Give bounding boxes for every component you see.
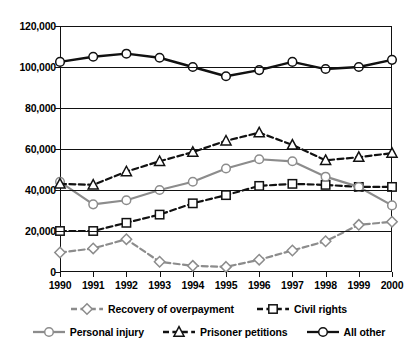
legend-marker-circle-icon (32, 325, 66, 339)
y-tick-mark (55, 190, 60, 191)
gridline (60, 190, 392, 191)
x-tick-label: 1996 (248, 279, 271, 291)
line-chart: 020,00040,00060,00080,000100,000120,000 … (0, 0, 417, 355)
x-tick-label: 1995 (215, 279, 238, 291)
legend-label: Civil rights (294, 303, 347, 315)
y-tick-label: 120,000 (0, 21, 56, 32)
y-tick-label: 60,000 (0, 144, 56, 155)
legend-marker-square-icon (256, 302, 290, 316)
x-tick-mark (359, 272, 360, 277)
y-tick-label: 100,000 (0, 62, 56, 73)
legend-marker-diamond-icon (70, 302, 104, 316)
x-tick-mark (160, 272, 161, 277)
x-tick-mark (60, 272, 61, 277)
legend-label: Recovery of overpayment (108, 303, 234, 315)
gridline (60, 149, 392, 150)
x-tick-mark (392, 272, 393, 277)
legend-label: Personal injury (70, 326, 144, 338)
legend-marker-circle-icon (306, 325, 340, 339)
x-tick-label: 1994 (182, 279, 205, 291)
x-tick-mark (326, 272, 327, 277)
x-tick-label: 1999 (348, 279, 371, 291)
x-tick-label: 1993 (148, 279, 171, 291)
legend-row: Personal injuryPrisoner petitionsAll oth… (0, 325, 417, 339)
y-tick-label: 20,000 (0, 226, 56, 237)
x-tick-label: 1992 (115, 279, 138, 291)
x-tick-mark (126, 272, 127, 277)
x-tick-mark (93, 272, 94, 277)
x-tick-mark (226, 272, 227, 277)
gridline (60, 67, 392, 68)
y-tick-label: 80,000 (0, 103, 56, 114)
legend-marker-triangle-icon (162, 325, 196, 339)
legend-item-personal-injury[interactable]: Personal injury (32, 325, 144, 339)
chart-legend: Recovery of overpaymentCivil rights Pers… (0, 302, 417, 355)
x-tick-label: 1997 (281, 279, 304, 291)
legend-label: All other (344, 326, 386, 338)
legend-item-civil-rights[interactable]: Civil rights (256, 302, 347, 316)
x-tick-label: 1991 (82, 279, 105, 291)
x-tick-mark (193, 272, 194, 277)
legend-label: Prisoner petitions (200, 326, 287, 338)
series-all-other (56, 49, 397, 80)
x-tick-label: 1990 (49, 279, 72, 291)
y-tick-mark (55, 149, 60, 150)
series-civil-rights (56, 180, 396, 236)
y-tick-mark (55, 231, 60, 232)
y-tick-mark (55, 67, 60, 68)
gridline (60, 231, 392, 232)
y-tick-mark (55, 26, 60, 27)
legend-item-all-other[interactable]: All other (306, 325, 386, 339)
legend-row: Recovery of overpaymentCivil rights (0, 302, 417, 316)
x-tick-mark (259, 272, 260, 277)
x-tick-label: 1998 (314, 279, 337, 291)
series-recovery-of-overpayment (55, 217, 397, 273)
legend-item-prisoner-petitions[interactable]: Prisoner petitions (162, 325, 287, 339)
x-tick-label: 2000 (381, 279, 404, 291)
gridline (60, 108, 392, 109)
series-personal-injury (56, 155, 397, 210)
x-axis: 1990199119921993199419951996199719981999… (0, 272, 417, 302)
series-prisoner-petitions (55, 127, 397, 189)
x-tick-mark (292, 272, 293, 277)
plot-area (60, 26, 392, 272)
y-tick-mark (55, 108, 60, 109)
y-tick-label: 40,000 (0, 185, 56, 196)
legend-item-recovery-of-overpayment[interactable]: Recovery of overpayment (70, 302, 234, 316)
